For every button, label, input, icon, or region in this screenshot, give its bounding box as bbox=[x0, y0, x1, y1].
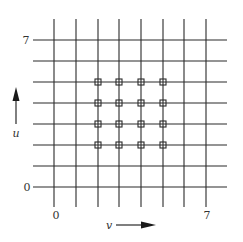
sampling-grid-diagram: 7 0 0 7 u v bbox=[0, 0, 243, 242]
v-tick-label-0: 0 bbox=[53, 209, 60, 222]
vertical-grid-lines bbox=[54, 19, 206, 207]
v-axis-arrow-icon bbox=[116, 222, 156, 229]
v-tick-label-7: 7 bbox=[204, 209, 211, 222]
horizontal-grid-lines bbox=[33, 40, 227, 187]
u-axis-label: u bbox=[12, 127, 19, 140]
u-tick-label-0: 0 bbox=[24, 181, 31, 194]
u-axis-arrow-icon bbox=[13, 87, 20, 124]
sample-point-markers bbox=[95, 79, 166, 148]
u-tick-label-7: 7 bbox=[23, 34, 30, 47]
v-axis-label: v bbox=[106, 219, 113, 232]
